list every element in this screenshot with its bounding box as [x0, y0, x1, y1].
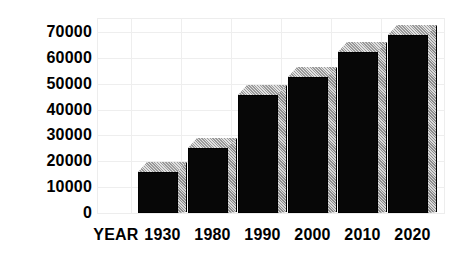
gridline-horizontal [97, 32, 445, 33]
plot-area [97, 18, 445, 214]
gridline-vertical [331, 18, 332, 214]
x-axis-tick-label: 2020 [388, 226, 437, 244]
gridline-horizontal [97, 110, 445, 111]
gridline-horizontal [97, 58, 445, 59]
gridline-horizontal [97, 187, 445, 188]
x-axis-labels: YEAR 1930 1980 1990 2000 2010 2020 [0, 226, 470, 248]
y-axis-tick-label: 10000 [0, 179, 92, 195]
y-axis-tick-label: 60000 [0, 50, 92, 66]
y-axis-labels: 70000 60000 50000 40000 30000 20000 1000… [0, 0, 92, 254]
x-axis-tick-label: 2010 [338, 226, 387, 244]
y-axis-tick-label: 50000 [0, 76, 92, 92]
gridline-vertical [281, 18, 282, 214]
x-axis-tick-label: 2000 [288, 226, 337, 244]
gridline-vertical [181, 18, 182, 214]
y-axis-tick-label: 20000 [0, 153, 92, 169]
y-axis-tick-label: 70000 [0, 24, 92, 40]
gridline-horizontal [97, 135, 445, 136]
gridline-vertical [131, 18, 132, 214]
y-axis-tick-label: 30000 [0, 127, 92, 143]
gridline-horizontal [97, 84, 445, 85]
x-axis-tick-label: 1990 [238, 226, 287, 244]
plot-border [97, 18, 445, 214]
bar-chart: 70000 60000 50000 40000 30000 20000 1000… [0, 0, 470, 254]
gridline-vertical [381, 18, 382, 214]
x-axis-tick-label: 1980 [188, 226, 237, 244]
gridline-vertical [231, 18, 232, 214]
y-axis-tick-label: 40000 [0, 102, 92, 118]
x-axis-title: YEAR [88, 226, 144, 244]
gridline-horizontal [97, 161, 445, 162]
x-axis-tick-label: 1930 [138, 226, 187, 244]
y-axis-tick-label: 0 [0, 205, 92, 221]
